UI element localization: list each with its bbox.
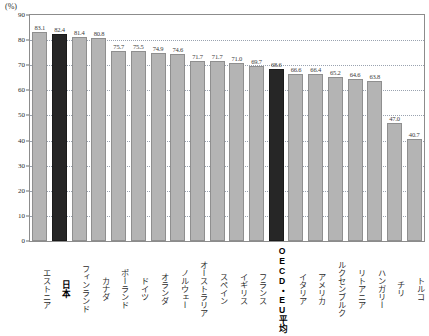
bar[interactable]	[52, 34, 67, 241]
x-axis-label-slot: ドイツ	[129, 244, 149, 336]
bar-value-label: 71.7	[192, 53, 203, 60]
bar-slot: 63.8	[365, 15, 385, 241]
x-axis-label-slot: 日本	[50, 244, 70, 336]
x-axis-label-slot: フランス	[247, 244, 267, 336]
bar[interactable]	[190, 61, 205, 241]
bar-value-label: 71.7	[212, 53, 223, 60]
bar-value-label: 66.4	[310, 66, 321, 73]
bar-value-label: 68.6	[271, 61, 282, 68]
x-axis-label-slot: ポーランド	[109, 244, 129, 336]
x-axis-label-slot: ノルウェー	[168, 244, 188, 336]
y-axis-tick-label: 0	[22, 238, 26, 245]
bar-value-label: 74.9	[153, 45, 164, 52]
bar-slot: 69.7	[247, 15, 267, 241]
y-axis-tick-label: 40	[18, 137, 25, 144]
x-axis-label-slot: オランダ	[148, 244, 168, 336]
bar[interactable]	[407, 139, 422, 241]
bar-slot: 71.7	[188, 15, 208, 241]
x-axis-label-slot: フィンランド	[69, 244, 89, 336]
x-axis-tick-label: エストニア	[30, 244, 50, 334]
y-axis-tick-label: 30	[18, 162, 25, 169]
x-axis-tick-label: カナダ	[89, 244, 109, 334]
bar[interactable]	[328, 77, 343, 241]
x-axis-tick-label: OECD・EU平均	[266, 244, 286, 334]
bar-value-label: 47.0	[389, 115, 400, 122]
y-axis-tick-label: 60	[18, 87, 25, 94]
bar-value-label: 83.1	[35, 24, 46, 31]
y-axis-tick-label: 20	[18, 187, 25, 194]
x-axis-tick-label: スペイン	[207, 244, 227, 334]
x-axis-label-slot: アメリカ	[306, 244, 326, 336]
x-axis-tick-label: チリ	[385, 244, 405, 334]
bar[interactable]	[151, 53, 166, 241]
x-axis-label-slot: オーストラリア	[188, 244, 208, 336]
bar-value-label: 40.7	[409, 131, 420, 138]
y-axis: 9080706050403020100	[0, 14, 29, 242]
x-axis-tick-label: リトアニア	[345, 244, 365, 334]
bar-slot: 83.1	[30, 15, 50, 241]
bar[interactable]	[367, 81, 382, 241]
bar[interactable]	[72, 37, 87, 241]
x-axis-tick-label: アメリカ	[306, 244, 326, 334]
bar-slot: 64.6	[345, 15, 365, 241]
bar-slot: 82.4	[50, 15, 70, 241]
bar-value-label: 71.0	[232, 55, 243, 62]
bar[interactable]	[131, 51, 146, 241]
bar-slot: 71.7	[207, 15, 227, 241]
x-axis-label-slot: ハンガリー	[365, 244, 385, 336]
bar-slot: 75.5	[129, 15, 149, 241]
bar-value-label: 81.4	[74, 29, 85, 36]
bar-value-label: 65.2	[330, 69, 341, 76]
x-axis-tick-label: イタリア	[286, 244, 306, 334]
x-axis-tick-label: ポーランド	[109, 244, 129, 334]
bar[interactable]	[32, 32, 47, 241]
bar[interactable]	[111, 51, 126, 241]
bar-value-label: 69.7	[251, 58, 262, 65]
bar-value-label: 80.8	[94, 30, 105, 37]
x-axis-label-slot: OECD・EU平均	[266, 244, 286, 336]
bar-value-label: 63.8	[369, 73, 380, 80]
bar-value-label: 74.6	[172, 46, 183, 53]
bar-slot: 80.8	[89, 15, 109, 241]
x-axis-tick-label: トルコ	[404, 244, 424, 334]
bar-value-label: 66.6	[291, 66, 302, 73]
bar[interactable]	[170, 54, 185, 241]
x-axis-label-slot: チリ	[385, 244, 405, 336]
bar-slot: 81.4	[69, 15, 89, 241]
bar-slot: 74.9	[148, 15, 168, 241]
x-axis-label-slot: リトアニア	[345, 244, 365, 336]
bar[interactable]	[348, 79, 363, 241]
bar-slot: 66.6	[286, 15, 306, 241]
y-axis-unit-label: (%)	[5, 2, 17, 11]
bar[interactable]	[229, 63, 244, 241]
bars-container: 83.182.481.480.875.775.574.974.671.771.7…	[30, 15, 424, 241]
bar-slot: 75.7	[109, 15, 129, 241]
x-axis-label-slot: イギリス	[227, 244, 247, 336]
x-axis-label-slot: イタリア	[286, 244, 306, 336]
x-axis-tick-label: ハンガリー	[365, 244, 385, 334]
bar[interactable]	[249, 66, 264, 241]
x-axis-tick-label: 日本	[50, 244, 70, 334]
bar[interactable]	[269, 69, 284, 241]
bar[interactable]	[210, 61, 225, 241]
bar[interactable]	[387, 123, 402, 241]
bar-chart: (%) 9080706050403020100 83.182.481.480.8…	[0, 0, 429, 336]
x-axis-tick-label: オーストラリア	[188, 244, 208, 334]
y-axis-tick-label: 90	[18, 12, 25, 19]
bar-value-label: 75.7	[113, 43, 124, 50]
bar-slot: 40.7	[404, 15, 424, 241]
bar[interactable]	[91, 38, 106, 241]
bar-slot: 68.6	[266, 15, 286, 241]
bar-slot: 65.2	[326, 15, 346, 241]
bar[interactable]	[288, 74, 303, 241]
x-axis-label-slot: エストニア	[30, 244, 50, 336]
x-axis-labels: エストニア日本フィンランドカナダポーランドドイツオランダノルウェーオーストラリア…	[30, 244, 424, 336]
bar-value-label: 82.4	[54, 26, 65, 33]
x-axis-tick-label: フランス	[247, 244, 267, 334]
x-axis-label-slot: トルコ	[404, 244, 424, 336]
bar[interactable]	[308, 74, 323, 241]
bar-slot: 71.0	[227, 15, 247, 241]
y-axis-tick-label: 10	[18, 212, 25, 219]
bar-slot: 74.6	[168, 15, 188, 241]
x-axis-label-slot: カナダ	[89, 244, 109, 336]
